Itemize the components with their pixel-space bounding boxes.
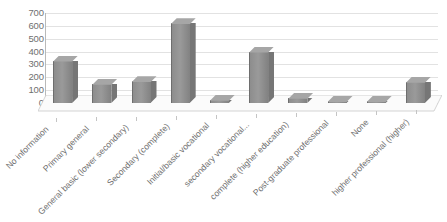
x-axis-tickmark xyxy=(176,116,177,120)
bar-column[interactable] xyxy=(367,13,386,103)
bar-side-face xyxy=(268,52,274,103)
bar[interactable] xyxy=(53,61,72,103)
y-axis: 7006005004003002001000 xyxy=(0,0,44,110)
bar[interactable] xyxy=(92,84,111,103)
bar[interactable] xyxy=(367,101,386,103)
bar-front-face xyxy=(249,52,268,103)
y-axis-tick-label: 500 xyxy=(0,34,44,44)
bar-front-face xyxy=(171,23,190,103)
bar-side-face xyxy=(229,100,235,103)
x-axis-tickmark xyxy=(96,117,97,121)
bar-side-face xyxy=(190,23,196,103)
x-axis-tick-label[interactable]: complete (higher education) xyxy=(209,120,291,202)
bar[interactable] xyxy=(210,100,229,103)
bar-front-face xyxy=(406,82,425,103)
x-axis-tickmark xyxy=(216,115,217,119)
bar-side-face xyxy=(151,81,157,103)
bar[interactable] xyxy=(132,81,151,103)
y-axis-tick-label: 200 xyxy=(0,72,44,82)
bar-chart: 7006005004003002001000 No informationPri… xyxy=(0,0,447,222)
x-axis-tickmark xyxy=(136,117,137,121)
bar-column[interactable] xyxy=(249,13,268,103)
bar[interactable] xyxy=(328,101,347,103)
bar[interactable] xyxy=(171,23,190,103)
x-axis-tick-label[interactable]: Post-graduate professional xyxy=(252,119,331,198)
y-axis-tick-label: 100 xyxy=(0,85,44,95)
bar-column[interactable] xyxy=(171,13,190,103)
bar[interactable] xyxy=(249,52,268,103)
bar-side-face xyxy=(386,101,392,103)
x-axis-tickmark xyxy=(256,114,257,118)
bar-side-face xyxy=(111,84,117,103)
x-axis-tick-label[interactable]: higher professional (higher) xyxy=(330,117,411,198)
bar[interactable] xyxy=(288,98,307,103)
bar-side-face xyxy=(425,82,431,103)
bar-column[interactable] xyxy=(406,13,425,103)
bar-column[interactable] xyxy=(92,13,111,103)
bar-front-face xyxy=(53,61,72,103)
bar-column[interactable] xyxy=(288,13,307,103)
bar-front-face xyxy=(92,84,111,103)
y-axis-tick-label: 700 xyxy=(0,8,44,18)
x-axis-tickmark xyxy=(336,112,337,116)
x-axis-tick-label[interactable]: None xyxy=(350,118,371,139)
bar-column[interactable] xyxy=(328,13,347,103)
bar-top-face xyxy=(367,96,392,102)
y-axis-tick-label: 300 xyxy=(0,59,44,69)
bar-column[interactable] xyxy=(132,13,151,103)
x-axis-tickmark xyxy=(56,118,57,122)
bar-column[interactable] xyxy=(53,13,72,103)
bar[interactable] xyxy=(406,82,425,103)
bar-column[interactable] xyxy=(210,13,229,103)
bar-side-face xyxy=(307,98,313,103)
y-axis-tick-label: 400 xyxy=(0,47,44,57)
x-axis-tickmark xyxy=(296,113,297,117)
bar-top-face xyxy=(328,96,353,102)
bar-front-face xyxy=(132,81,151,103)
bar-side-face xyxy=(72,61,78,103)
plot-area xyxy=(46,13,438,103)
y-axis-tick-label: 600 xyxy=(0,21,44,31)
bar-side-face xyxy=(347,101,353,103)
